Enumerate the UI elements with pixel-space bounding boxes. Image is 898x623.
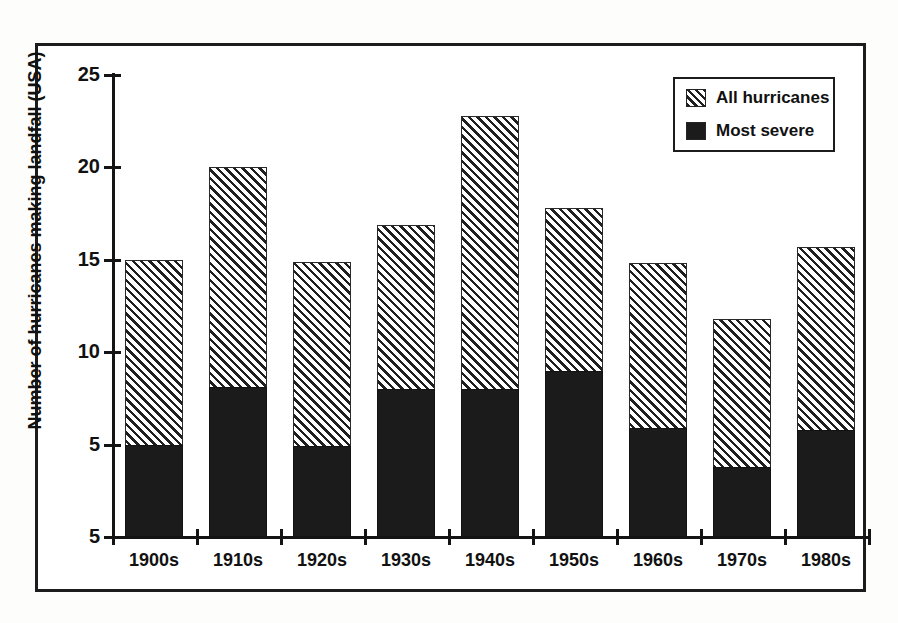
x-tick-mark: [784, 529, 787, 545]
x-tick-label: 1930s: [360, 551, 452, 569]
y-tick-mark: [104, 351, 121, 354]
x-tick-mark: [700, 529, 703, 545]
y-tick-mark: [104, 74, 121, 77]
x-tick-mark: [448, 529, 451, 545]
y-tick-label-wrap: 25: [52, 75, 100, 76]
y-axis-title: Number of hurricanes making landfall (US…: [25, 31, 46, 451]
bar-segment-most-severe: [629, 428, 688, 537]
bar-segment-most-severe: [293, 446, 352, 537]
bar-1900s: [125, 260, 184, 537]
legend-label: Most severe: [716, 120, 814, 142]
bar-segment-most-severe: [209, 387, 268, 537]
y-tick-label: 5: [60, 434, 100, 454]
bar-segment-most-severe: [797, 430, 856, 537]
x-tick-mark: [868, 529, 871, 545]
x-tick-label: 1940s: [444, 551, 536, 569]
x-tick-mark: [532, 529, 535, 545]
bar-segment-most-severe: [125, 445, 184, 537]
y-tick-label-wrap: 5: [52, 445, 100, 446]
x-tick-label: 1920s: [276, 551, 368, 569]
x-tick-mark: [364, 529, 367, 545]
chart-legend: All hurricanes Most severe: [673, 77, 835, 152]
x-tick-label: 1910s: [192, 551, 284, 569]
bar-1980s: [797, 247, 856, 537]
x-tick-label: 1980s: [780, 551, 872, 569]
y-tick-label-wrap: 20: [52, 167, 100, 168]
bar-1960s: [629, 263, 688, 537]
y-tick-label: 15: [60, 249, 100, 269]
bar-segment-most-severe: [377, 389, 436, 537]
solid-swatch-icon: [686, 122, 706, 140]
bar-segment-most-severe: [461, 389, 520, 537]
y-tick-label-wrap: 5: [52, 537, 100, 538]
x-tick-mark: [616, 529, 619, 545]
y-tick-mark: [104, 166, 121, 169]
y-tick-label: 20: [60, 156, 100, 176]
bar-1950s: [545, 208, 604, 537]
x-tick-mark: [112, 529, 115, 545]
y-tick-label: 5: [60, 526, 100, 546]
y-tick-label-wrap: 15: [52, 260, 100, 261]
y-axis-line: [112, 73, 115, 539]
x-tick-mark: [196, 529, 199, 545]
figure-canvas: Number of hurricanes making landfall (US…: [0, 0, 898, 623]
bar-1930s: [377, 225, 436, 537]
legend-label: All hurricanes: [716, 87, 829, 109]
x-tick-label: 1970s: [696, 551, 788, 569]
bar-1910s: [209, 167, 268, 537]
y-tick-label: 10: [60, 341, 100, 361]
bar-1970s: [713, 319, 772, 537]
y-tick-mark: [104, 259, 121, 262]
x-tick-label: 1960s: [612, 551, 704, 569]
bar-1920s: [293, 262, 352, 537]
hatched-swatch-icon: [686, 89, 706, 107]
bar-segment-most-severe: [545, 371, 604, 537]
y-tick-label: 25: [60, 64, 100, 84]
y-tick-label-wrap: 10: [52, 352, 100, 353]
x-tick-label: 1950s: [528, 551, 620, 569]
x-tick-label: 1900s: [108, 551, 200, 569]
x-tick-mark: [280, 529, 283, 545]
y-tick-mark: [104, 444, 121, 447]
bar-1940s: [461, 116, 520, 537]
bar-segment-most-severe: [713, 467, 772, 537]
